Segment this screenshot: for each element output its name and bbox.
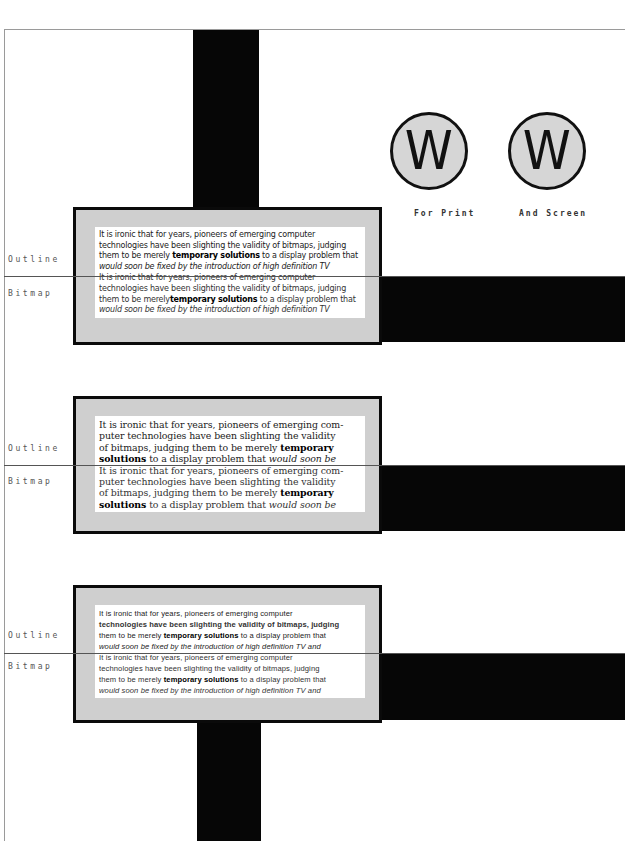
- outline-line: It is ironic that for years, pioneers of…: [99, 419, 361, 430]
- sample-panel-3: It is ironic that for years, pioneers of…: [73, 585, 382, 723]
- outline-paragraph-2: It is ironic that for years, pioneers of…: [95, 416, 365, 465]
- outline-line: them to be merely temporary solutions to…: [99, 251, 361, 262]
- screen-caption: And Screen: [519, 209, 587, 218]
- outline-label-1: Outline: [8, 255, 60, 264]
- bitmap-line: them to be merelytemporary solutions to …: [99, 295, 361, 306]
- screen-logo-circle: W: [508, 112, 586, 190]
- divider-1: [4, 276, 625, 277]
- outline-line: It is ironic that for years, pioneers of…: [99, 230, 361, 241]
- print-logo-circle: W: [390, 112, 468, 190]
- page-frame-top: [4, 29, 625, 30]
- outline-line: solutions to a display problem that woul…: [99, 453, 361, 464]
- bottom-vertical-bar: [197, 716, 261, 841]
- bitmap-line: them to be merely temporary solutions to…: [99, 674, 361, 685]
- bitmap-line: puter technologies have been slighting t…: [99, 476, 361, 487]
- outline-line: puter technologies have been slighting t…: [99, 430, 361, 441]
- w-glyph-screen: W: [523, 124, 571, 178]
- bitmap-label-2: Bitmap: [8, 477, 53, 486]
- outline-line: them to be merely temporary solutions to…: [99, 630, 361, 641]
- outline-paragraph-3: It is ironic that for years, pioneers of…: [95, 605, 365, 652]
- bitmap-line: of bitmaps, judging them to be merely te…: [99, 487, 361, 498]
- outline-paragraph-1: It is ironic that for years, pioneers of…: [95, 227, 365, 272]
- sample-text-area-2: It is ironic that for years, pioneers of…: [95, 416, 365, 512]
- bitmap-paragraph-1: It is ironic that for years, pioneers of…: [95, 272, 365, 315]
- bitmap-line: would soon be fixed by the introduction …: [99, 305, 361, 316]
- bitmap-line: solutions to a display problem that woul…: [99, 499, 361, 510]
- bitmap-paragraph-2: It is ironic that for years, pioneers of…: [95, 465, 365, 511]
- bitmap-line: It is ironic that for years, pioneers of…: [99, 273, 361, 284]
- bitmap-paragraph-3: It is ironic that for years, pioneers of…: [95, 652, 365, 696]
- bitmap-label-1: Bitmap: [8, 289, 53, 298]
- top-vertical-bar: [193, 30, 259, 210]
- outline-line: would soon be fixed by the introduction …: [99, 641, 361, 652]
- outline-line: of bitmaps, judging them to be merely te…: [99, 442, 361, 453]
- page-frame-left: [4, 29, 5, 841]
- sample-text-area-3: It is ironic that for years, pioneers of…: [95, 605, 365, 698]
- outline-label-2: Outline: [8, 444, 60, 453]
- outline-line: It is ironic that for years, pioneers of…: [99, 608, 361, 619]
- outline-line: technologies have been slighting the val…: [99, 619, 361, 630]
- bitmap-line: technologies have been slighting the val…: [99, 663, 361, 674]
- divider-2: [4, 465, 625, 466]
- bitmap-label-3: Bitmap: [8, 662, 53, 671]
- divider-3: [4, 653, 625, 654]
- w-glyph-print: W: [405, 124, 453, 178]
- band-3: [376, 654, 625, 720]
- band-2: [376, 465, 625, 531]
- sample-text-area-1: It is ironic that for years, pioneers of…: [95, 227, 365, 318]
- outline-line: technologies have been slighting the val…: [99, 241, 361, 252]
- print-caption: For Print: [414, 209, 475, 218]
- outline-label-3: Outline: [8, 631, 60, 640]
- band-1: [376, 276, 625, 342]
- bitmap-line: It is ironic that for years, pioneers of…: [99, 465, 361, 476]
- bitmap-line: technologies have been slighting the val…: [99, 284, 361, 295]
- outline-line: would soon be fixed by the introduction …: [99, 262, 361, 273]
- bitmap-line: would soon be fixed by the introduction …: [99, 685, 361, 696]
